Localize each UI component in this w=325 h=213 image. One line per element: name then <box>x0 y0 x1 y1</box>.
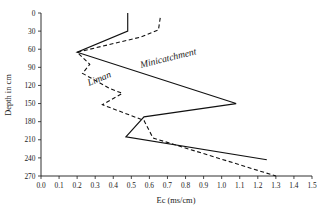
y-tick-label: 150 <box>24 99 35 108</box>
x-tick-label: 0.8 <box>181 181 191 190</box>
x-tick-label: 0.7 <box>163 181 173 190</box>
y-axis-ticks: 0306090120150180210240270 <box>24 9 41 181</box>
y-tick-label: 240 <box>24 154 35 163</box>
y-tick-label: 0 <box>32 9 36 18</box>
x-tick-label: 0.5 <box>127 181 137 190</box>
y-tick-label: 270 <box>24 172 35 181</box>
y-tick-label: 180 <box>24 117 35 126</box>
series-label-minicatchment: Minicatchment <box>138 45 198 70</box>
x-tick-label: 1.3 <box>271 181 281 190</box>
x-tick-label: 0.9 <box>199 181 209 190</box>
x-tick-label: 1.4 <box>289 181 299 190</box>
x-tick-label: 1.5 <box>307 181 317 190</box>
x-tick-label: 1.1 <box>235 181 245 190</box>
x-tick-label: 0.3 <box>91 181 101 190</box>
data-series-group <box>77 13 276 176</box>
x-tick-label: 0.4 <box>109 181 119 190</box>
chart-container: 0306090120150180210240270 0.00.10.20.30.… <box>0 0 325 213</box>
y-tick-label: 30 <box>28 27 36 36</box>
x-tick-label: 1.0 <box>217 181 227 190</box>
x-tick-label: 0.2 <box>73 181 83 190</box>
y-tick-label: 90 <box>28 63 36 72</box>
x-tick-label: 0.1 <box>54 181 64 190</box>
ec-depth-line-chart: 0306090120150180210240270 0.00.10.20.30.… <box>0 0 325 213</box>
plot-axes <box>41 13 312 176</box>
y-axis-title: Depth in cm <box>4 74 13 116</box>
y-tick-label: 210 <box>24 135 35 144</box>
x-axis-ticks: 0.00.10.20.30.40.50.60.70.80.91.01.11.21… <box>36 176 317 190</box>
series-line-liman <box>77 18 276 176</box>
y-tick-label: 120 <box>24 81 35 90</box>
x-tick-label: 0.6 <box>145 181 155 190</box>
x-axis-title: Ec (ms/cm) <box>157 196 196 205</box>
x-tick-label: 1.2 <box>253 181 263 190</box>
series-label-liman: Liman <box>85 68 113 88</box>
x-tick-label: 0.0 <box>36 181 46 190</box>
y-tick-label: 60 <box>28 45 36 54</box>
